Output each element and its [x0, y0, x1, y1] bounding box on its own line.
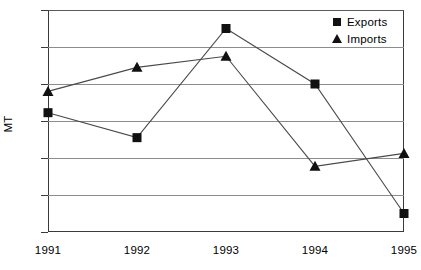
legend-label-exports: Exports — [347, 16, 387, 28]
legend-label-imports: Imports — [347, 33, 387, 45]
line-chart: MT 1200 1000 800 600 400 200 0 1991 1992… — [0, 0, 421, 270]
data-point-exports-1995 — [400, 209, 409, 218]
data-point-exports-1992 — [133, 133, 142, 142]
square-marker-icon — [330, 18, 344, 26]
data-point-exports-1991 — [44, 108, 53, 117]
series-line-imports — [48, 56, 404, 166]
data-point-exports-1993 — [222, 24, 231, 33]
triangle-marker-icon — [330, 34, 344, 43]
legend-item-exports: Exports — [330, 14, 387, 29]
data-point-imports-1993 — [221, 51, 232, 61]
legend-item-imports: Imports — [330, 31, 387, 46]
data-point-imports-1995 — [399, 148, 410, 158]
data-point-exports-1994 — [311, 80, 320, 89]
legend: Exports Imports — [330, 14, 387, 48]
